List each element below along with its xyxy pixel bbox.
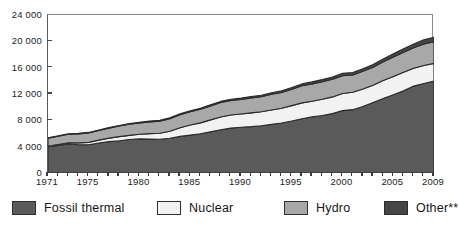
x-tick-mark [77, 172, 78, 176]
x-tick-label: 1985 [178, 176, 200, 187]
x-tick-mark [57, 172, 58, 176]
x-tick-mark [199, 172, 200, 176]
x-tick-label: 2009 [422, 176, 444, 187]
x-tick-label: 1971 [36, 176, 58, 187]
x-tick-mark [321, 172, 322, 176]
x-tick-mark [422, 172, 423, 176]
x-tick-label: 1990 [229, 176, 251, 187]
y-axis: 04 0008 00012 00016 00020 00024 000 [0, 0, 44, 229]
stacked-area-series-group [48, 15, 434, 173]
x-tick-label: 2005 [381, 176, 403, 187]
x-tick-mark [158, 172, 159, 176]
legend-label: Hydro [316, 201, 350, 215]
x-tick-label: 1980 [127, 176, 149, 187]
x-tick-mark [87, 172, 88, 176]
y-tick-mark [47, 66, 52, 67]
x-tick-mark [209, 172, 210, 176]
x-tick-mark [117, 172, 118, 176]
x-tick-mark [229, 172, 230, 176]
y-tick-label: 20 000 [12, 35, 42, 46]
x-tick-mark [138, 172, 139, 176]
electricity-generation-stacked-area-figure: 04 0008 00012 00016 00020 00024 000 1971… [0, 0, 459, 229]
x-tick-mark [300, 172, 301, 176]
x-tick-mark [219, 172, 220, 176]
x-tick-mark [239, 172, 240, 176]
x-tick-mark [107, 172, 108, 176]
x-tick-mark [331, 172, 332, 176]
legend-item-nuclear[interactable]: Nuclear [157, 201, 233, 215]
y-tick-mark [47, 145, 52, 146]
legend-swatch [284, 201, 308, 215]
x-tick-mark [402, 172, 403, 176]
legend-item-hydro[interactable]: Hydro [284, 201, 350, 215]
y-tick-mark [47, 92, 52, 93]
plot-area [47, 14, 433, 172]
x-tick-mark [97, 172, 98, 176]
x-tick-label: 2000 [331, 176, 353, 187]
x-tick-mark [361, 172, 362, 176]
x-tick-mark [46, 172, 47, 176]
x-tick-mark [290, 172, 291, 176]
x-tick-mark [351, 172, 352, 176]
legend-swatch [12, 201, 36, 215]
x-tick-mark [128, 172, 129, 176]
x-tick-mark [382, 172, 383, 176]
x-tick-mark [67, 172, 68, 176]
x-tick-mark [412, 172, 413, 176]
y-tick-label: 12 000 [12, 88, 42, 99]
legend-item-other[interactable]: Other** [384, 201, 458, 215]
x-tick-mark [392, 172, 393, 176]
x-tick-label: 1995 [280, 176, 302, 187]
x-tick-label: 1975 [77, 176, 99, 187]
y-tick-label: 8 000 [17, 114, 42, 125]
y-tick-label: 24 000 [12, 9, 42, 20]
x-tick-mark [310, 172, 311, 176]
legend-item-fossil-thermal[interactable]: Fossil thermal [12, 201, 125, 215]
x-tick-mark [250, 172, 251, 176]
legend: Fossil thermalNuclearHydroOther** [12, 196, 452, 220]
x-tick-mark [148, 172, 149, 176]
x-tick-mark [189, 172, 190, 176]
x-tick-mark [178, 172, 179, 176]
y-tick-label: 16 000 [12, 61, 42, 72]
x-tick-mark [260, 172, 261, 176]
x-tick-mark [371, 172, 372, 176]
x-axis: 197119751980198519901995200020052009 [0, 176, 459, 192]
x-tick-mark [280, 172, 281, 176]
legend-label: Nuclear [189, 201, 233, 215]
x-tick-mark [168, 172, 169, 176]
legend-label: Other** [416, 201, 458, 215]
legend-swatch [384, 201, 408, 215]
y-tick-mark [47, 119, 52, 120]
legend-label: Fossil thermal [44, 201, 125, 215]
legend-swatch [157, 201, 181, 215]
x-tick-mark [341, 172, 342, 176]
y-tick-mark [47, 40, 52, 41]
x-tick-mark [270, 172, 271, 176]
y-tick-label: 4 000 [17, 140, 42, 151]
x-tick-mark [432, 172, 433, 176]
